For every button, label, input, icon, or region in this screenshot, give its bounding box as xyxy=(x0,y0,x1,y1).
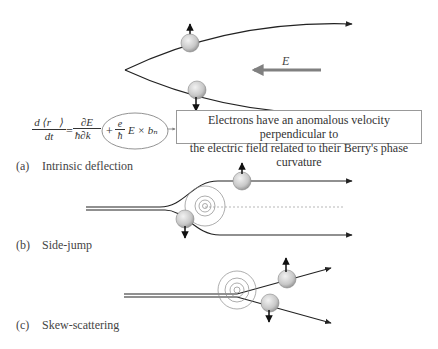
electron-sphere xyxy=(188,81,206,99)
upper-trajectory xyxy=(86,181,352,207)
electron-sphere xyxy=(261,294,279,312)
upper-trajectory xyxy=(125,24,352,70)
equation-lhs: d ⟨r⃗⟩ dt xyxy=(32,116,66,142)
panel-c-skew-scattering xyxy=(124,258,331,323)
electric-field-label: E xyxy=(282,54,289,69)
diagram-canvas xyxy=(0,0,438,349)
equation-term-2-fraction: e ħ xyxy=(115,118,125,141)
lower-trajectory xyxy=(237,297,331,323)
electron-sphere xyxy=(278,270,296,288)
callout-line-1: Electrons have an anomalous velocity per… xyxy=(177,113,421,141)
panel-b-side-jump xyxy=(86,163,352,238)
equation-term-1: ∂E ħ∂k⃗ xyxy=(73,116,101,141)
equals-sign: = xyxy=(66,124,73,139)
panel-c-caption: (c)Skew-scattering xyxy=(16,318,119,333)
plus-sign: + xyxy=(106,124,113,139)
lower-trajectory xyxy=(86,210,352,235)
panel-b-caption: (b)Side-jump xyxy=(16,238,92,253)
callout-line-2: the electric field related to their Berr… xyxy=(177,141,421,169)
anomalous-velocity-callout: Electrons have an anomalous velocity per… xyxy=(176,110,422,144)
electron-sphere xyxy=(176,210,194,228)
panel-a-caption: (a)Intrinsic deflection xyxy=(16,159,133,174)
lower-trajectory xyxy=(125,70,352,113)
equation-term-2-rest: E × bₙ xyxy=(128,124,158,137)
electron-sphere xyxy=(181,34,199,52)
electron-sphere xyxy=(233,172,251,190)
